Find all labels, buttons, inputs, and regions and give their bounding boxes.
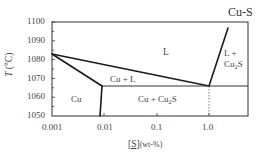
x-tick-label: 0.001 bbox=[42, 123, 62, 132]
region-label-Cu-plus-Cu2S: Cu + Cu2S bbox=[138, 95, 177, 106]
x-axis-symbol: S bbox=[131, 139, 136, 149]
y-tick-label: 1050 bbox=[27, 111, 45, 120]
y-tick-label: 1080 bbox=[27, 55, 45, 64]
y-axis-label: T (°C) bbox=[5, 53, 15, 77]
x-axis-unit: (wt-%) bbox=[140, 140, 163, 149]
region-label-L: L bbox=[163, 48, 169, 58]
chart-title: Cu-S bbox=[228, 6, 253, 18]
y-tick-label: 1070 bbox=[27, 74, 45, 83]
y-axis-unit: (°C) bbox=[4, 53, 14, 72]
y-axis-symbol: T bbox=[4, 72, 14, 77]
x-axis-label: [S](wt-%) bbox=[128, 140, 162, 150]
region-label-L-plus-Cu2S: L + Cu2S bbox=[224, 48, 243, 72]
x-tick-label: 0.1 bbox=[151, 123, 162, 132]
x-tick-label: 0.01 bbox=[97, 123, 113, 132]
solvus-line bbox=[100, 86, 102, 116]
x-tick-label: 1.0 bbox=[202, 123, 213, 132]
region-label-Cu-plus-L: Cu + L bbox=[110, 75, 136, 84]
y-tick-label: 1090 bbox=[27, 36, 45, 45]
region-label-Cu: Cu bbox=[71, 95, 82, 104]
y-tick-label: 1100 bbox=[27, 17, 45, 26]
y-tick-label: 1060 bbox=[27, 92, 45, 101]
